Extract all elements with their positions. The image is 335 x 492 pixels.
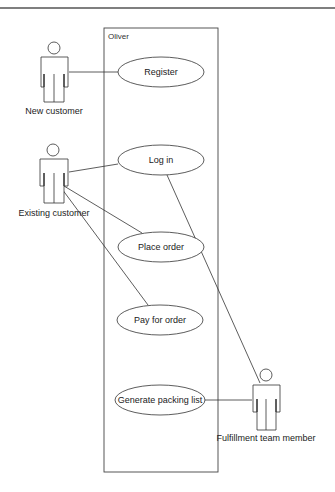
use-case-pay-for-order[interactable]: Pay for order <box>117 305 203 335</box>
actor-new-customer[interactable]: New customer <box>25 42 83 116</box>
use-case-label: Generate packing list <box>118 395 203 405</box>
system-name: Oliver <box>108 32 129 41</box>
actor-label: New customer <box>25 106 83 116</box>
use-case-register[interactable]: Register <box>118 57 204 87</box>
actor-existing-customer[interactable]: Existing customer <box>18 144 89 218</box>
use-case-label: Place order <box>138 242 184 252</box>
use-case-label: Log in <box>149 155 174 165</box>
use-case-place-order[interactable]: Place order <box>118 232 204 262</box>
actor-label: Fulfillment team member <box>216 433 315 443</box>
assoc-existing-customer-log-in <box>69 164 118 172</box>
use-case-log-in[interactable]: Log in <box>118 145 204 175</box>
use-case-label: Pay for order <box>134 315 186 325</box>
use-case-label: Register <box>144 67 178 77</box>
assoc-fulfillment-log-in <box>167 175 260 383</box>
actor-head-icon <box>48 42 60 54</box>
actor-head-icon <box>47 144 59 156</box>
actor-label: Existing customer <box>18 208 89 218</box>
actor-fulfillment-team-member[interactable]: Fulfillment team member <box>216 369 315 443</box>
use-case-diagram: Oliver New customer Existing customer Fu… <box>0 0 335 492</box>
use-case-generate-packing-list[interactable]: Generate packing list <box>115 385 205 415</box>
actor-head-icon <box>260 369 272 381</box>
